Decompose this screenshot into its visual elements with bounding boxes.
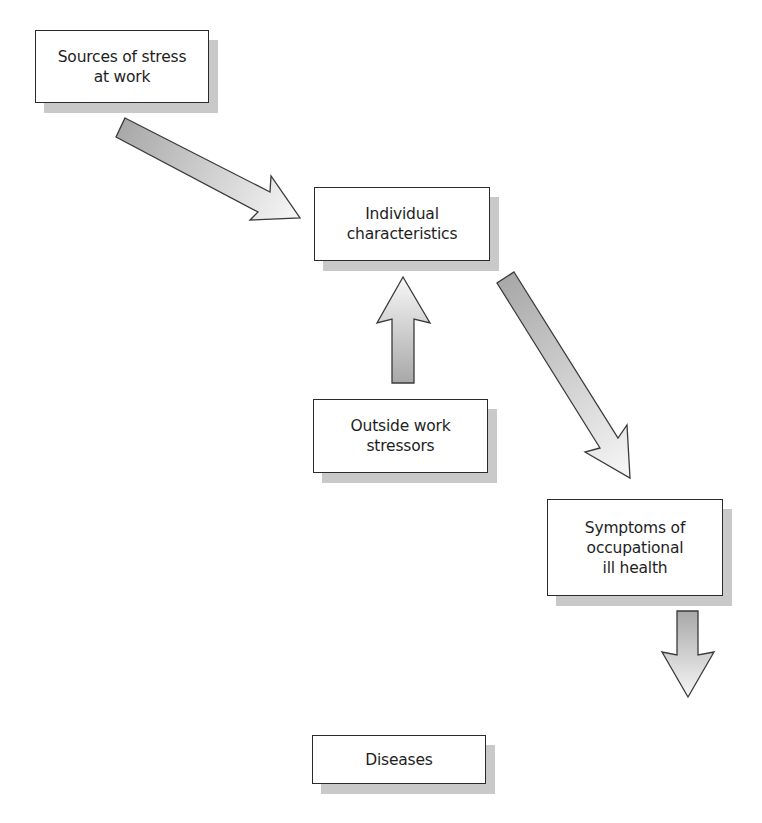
node-symptoms-of-ill-health: Symptoms of occupational ill health — [547, 499, 723, 596]
arrow-sources-to-individual-icon — [116, 118, 300, 220]
node-diseases: Diseases — [312, 735, 486, 784]
arrow-symptoms-to-diseases-icon — [662, 611, 714, 697]
node-label: Individual characteristics — [314, 187, 490, 261]
node-individual-characteristics: Individual characteristics — [314, 187, 490, 261]
arrow-outside-to-individual-icon — [377, 277, 430, 383]
arrow-individual-to-symptoms-icon — [497, 272, 630, 478]
stress-model-diagram: Sources of stress at work Individual cha… — [0, 0, 762, 823]
node-sources-of-stress: Sources of stress at work — [35, 30, 209, 103]
node-label: Diseases — [312, 735, 486, 784]
node-label: Sources of stress at work — [35, 30, 209, 103]
node-outside-work-stressors: Outside work stressors — [313, 399, 488, 473]
node-label: Outside work stressors — [313, 399, 488, 473]
node-label: Symptoms of occupational ill health — [547, 499, 723, 596]
